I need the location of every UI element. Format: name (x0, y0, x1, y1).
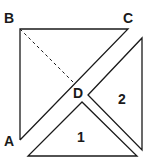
label-c: C (123, 11, 133, 25)
label-b: B (4, 11, 14, 25)
label-d: D (73, 86, 83, 100)
label-a: A (4, 134, 14, 148)
triangle-piece-2 (88, 38, 142, 150)
label-piece-1: 1 (77, 130, 85, 144)
label-piece-2: 2 (118, 92, 126, 106)
dashed-diagonal-bd (20, 29, 74, 83)
